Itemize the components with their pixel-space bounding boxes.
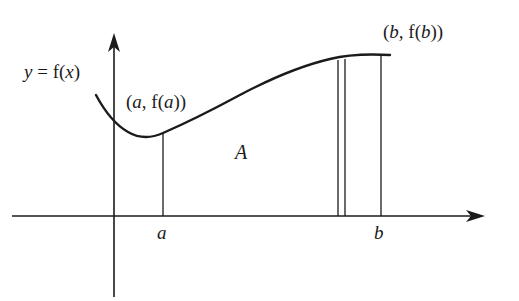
point-b-label: (b, f(b)) — [383, 22, 443, 41]
function-label: y = f(x) — [24, 62, 80, 81]
axes-group — [12, 33, 485, 297]
diagram-svg — [0, 0, 519, 301]
figure-canvas: y = f(x) (a, f(a)) (b, f(b)) A a b — [0, 0, 519, 301]
point-a-label: (a, f(a)) — [126, 92, 186, 111]
tick-b-label: b — [374, 223, 384, 242]
area-label: A — [235, 142, 247, 162]
tick-a-label: a — [157, 223, 167, 242]
